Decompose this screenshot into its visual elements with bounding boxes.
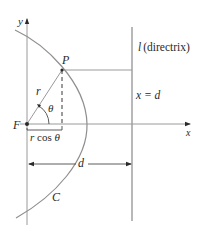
focus-point-f [25, 122, 29, 126]
directrix-label: l(directrix) [138, 41, 190, 54]
point-p [60, 68, 63, 71]
curve-c-label: C [52, 190, 61, 204]
conic-directrix-diagram: y x P F r θ r cos θ l(directrix) x = d d… [0, 0, 206, 235]
y-axis-label: y [17, 15, 23, 27]
theta-label: θ [48, 102, 54, 114]
radius-line [27, 70, 62, 124]
directrix-equation-label: x = d [135, 89, 161, 101]
point-p-label: P [61, 53, 70, 67]
r-cos-theta-label: r cos θ [30, 131, 60, 143]
diagram-canvas: y x P F r θ r cos θ l(directrix) x = d d… [0, 0, 206, 235]
distance-d-label: d [78, 156, 85, 170]
r-cos-theta-bracket [27, 126, 62, 130]
x-axis-label: x [185, 127, 191, 138]
radius-r-label: r [36, 84, 41, 98]
focus-f-label: F [12, 118, 21, 132]
